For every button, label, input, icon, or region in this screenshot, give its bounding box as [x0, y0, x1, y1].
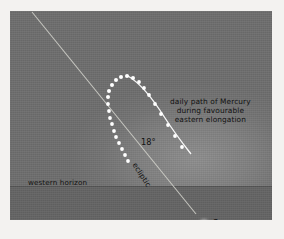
mercury-path-caption: daily path of Mercury during favourable … [170, 97, 251, 124]
mercury-elongation-figure: daily path of Mercury during favourable … [0, 0, 284, 239]
western-horizon-label: western horizon [28, 179, 87, 188]
elongation-angle-label: 18° [141, 137, 156, 147]
sun-label: Sun [213, 219, 229, 220]
sky-panel: daily path of Mercury during favourable … [10, 11, 272, 220]
